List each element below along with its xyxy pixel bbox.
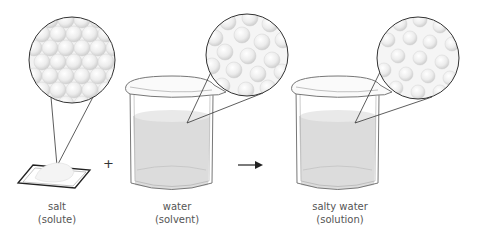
zoom-line: [57, 97, 93, 166]
zoom-line: [51, 97, 57, 166]
salt-crystal-spheres: [26, 12, 122, 112]
reaction-arrow-icon: [238, 161, 263, 169]
zoom-line: [355, 97, 432, 123]
plus-sign: +: [103, 156, 114, 171]
zoom-line: [187, 93, 263, 123]
water-label: water (solvent): [137, 200, 217, 226]
component-role: (solute): [22, 213, 92, 226]
beaker-icon: [292, 76, 393, 190]
water-group: [126, 10, 292, 190]
component-name: salty water: [300, 200, 380, 213]
salty-water-label: salty water (solution): [300, 200, 380, 226]
salt-label: salt (solute): [22, 200, 92, 226]
beaker-icon: [126, 76, 227, 190]
component-role: (solution): [300, 213, 380, 226]
component-name: water: [137, 200, 217, 213]
component-role: (solvent): [137, 213, 217, 226]
component-name: salt: [22, 200, 92, 213]
salty-water-group: [292, 13, 460, 190]
